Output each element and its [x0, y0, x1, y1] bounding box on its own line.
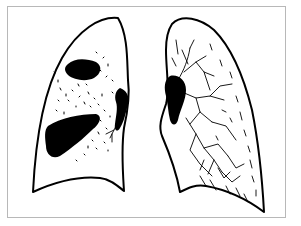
lungs-illustration — [0, 0, 301, 226]
right-hilum — [115, 88, 129, 131]
left-lung — [160, 18, 264, 212]
right-lung — [33, 18, 129, 192]
